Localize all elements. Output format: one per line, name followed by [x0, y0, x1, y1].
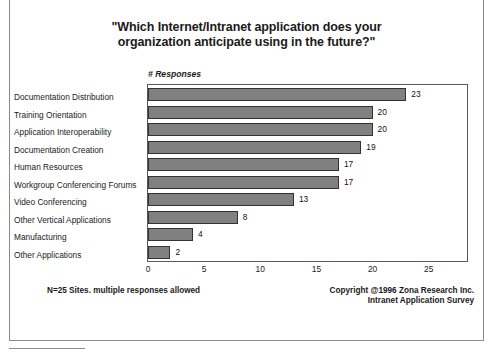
- bar-value-label: 19: [366, 142, 375, 153]
- bar-value-label: 13: [299, 194, 308, 205]
- bar: [148, 123, 373, 136]
- category-label: Application Interoperability: [14, 128, 143, 137]
- x-tick-label: 5: [202, 264, 207, 274]
- category-label: Video Conferencing: [14, 198, 143, 207]
- bar-value-label: 20: [378, 124, 387, 135]
- bar-row: 13: [148, 193, 468, 206]
- bar-row: 20: [148, 123, 468, 136]
- category-axis-labels: Documentation DistributionTraining Orien…: [14, 88, 145, 262]
- bar-series: 23202019171713842: [148, 85, 468, 262]
- x-axis-title: # Responses: [148, 69, 201, 79]
- x-axis-ticks: 0510152025: [147, 264, 468, 278]
- bar-row: 17: [148, 158, 468, 171]
- bar-row: 4: [148, 228, 468, 241]
- bar-value-label: 23: [411, 89, 420, 100]
- sample-size-note: N=25 Sites. multiple responses allowed: [47, 286, 200, 296]
- copyright-line-1: Copyright @1996 Zona Research Inc.: [330, 286, 475, 296]
- bar: [148, 106, 373, 119]
- chart-title: "Which Internet/Intranet application doe…: [9, 20, 484, 50]
- category-label: Workgroup Conferencing Forums: [14, 181, 143, 190]
- bar-value-label: 17: [344, 177, 353, 188]
- category-label: Manufacturing: [14, 233, 143, 242]
- bar-value-label: 17: [344, 159, 353, 170]
- category-label: Documentation Distribution: [14, 93, 143, 102]
- x-tick-label: 20: [368, 264, 377, 274]
- bar-row: 23: [148, 88, 468, 101]
- copyright-note: Copyright @1996 Zona Research Inc. Intra…: [330, 286, 475, 306]
- chart-title-line-1: "Which Internet/Intranet application doe…: [9, 20, 484, 35]
- bar-row: 20: [148, 106, 468, 119]
- x-tick-label: 0: [146, 264, 151, 274]
- x-tick-label: 15: [312, 264, 321, 274]
- bar-value-label: 4: [198, 229, 203, 240]
- x-tick-label: 25: [424, 264, 433, 274]
- bar: [148, 211, 238, 224]
- category-label: Other Applications: [14, 251, 143, 260]
- bar: [148, 193, 294, 206]
- x-tick-label: 10: [256, 264, 265, 274]
- copyright-line-2: Intranet Application Survey: [330, 296, 475, 306]
- category-label: Other Vertical Applications: [14, 216, 143, 225]
- bar: [148, 141, 361, 154]
- bar-value-label: 2: [175, 247, 180, 258]
- bottom-divider: [9, 348, 85, 349]
- bar: [148, 176, 339, 189]
- category-label: Documentation Creation: [14, 146, 143, 155]
- bar-row: 8: [148, 211, 468, 224]
- category-label: Human Resources: [14, 163, 143, 172]
- bar: [148, 228, 193, 241]
- bar-row: 19: [148, 141, 468, 154]
- bar-row: 2: [148, 246, 468, 259]
- bar: [148, 158, 339, 171]
- bar: [148, 88, 406, 101]
- bar-value-label: 20: [378, 107, 387, 118]
- chart-title-line-2: organization anticipate using in the fut…: [9, 35, 484, 50]
- category-label: Training Orientation: [14, 111, 143, 120]
- bar-value-label: 8: [243, 212, 248, 223]
- bar: [148, 246, 170, 259]
- bar-row: 17: [148, 176, 468, 189]
